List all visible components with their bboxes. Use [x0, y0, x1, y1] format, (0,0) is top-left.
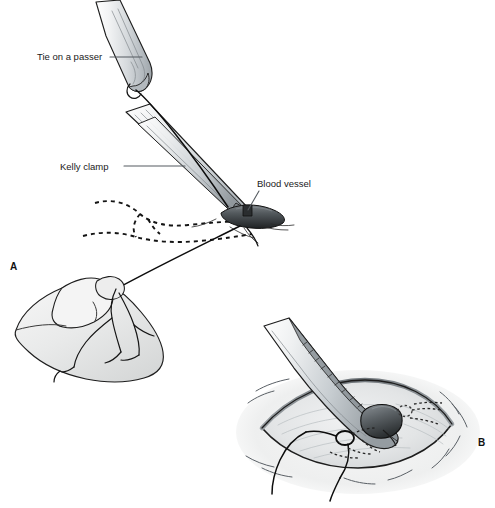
figure-canvas: A Tie on a passer Kelly clamp Blood vess… [0, 0, 495, 508]
panel-b-illustration: B [236, 318, 485, 501]
vessel-loop-passer [96, 0, 152, 91]
panel-a-illustration: A Tie on a passer Kelly clamp Blood vess… [10, 0, 311, 382]
label-blood-vessel: Blood vessel [257, 178, 311, 189]
panel-letter-a: A [10, 261, 17, 272]
surgical-figure: A Tie on a passer Kelly clamp Blood vess… [0, 0, 495, 508]
label-kelly-clamp-group: Kelly clamp [60, 161, 185, 172]
kelly-clamp [126, 104, 252, 223]
label-kelly-clamp: Kelly clamp [60, 161, 109, 172]
panel-letter-b: B [478, 437, 485, 448]
hand-holding-suture [15, 277, 163, 382]
label-tie-on-a-passer: Tie on a passer [37, 51, 102, 62]
